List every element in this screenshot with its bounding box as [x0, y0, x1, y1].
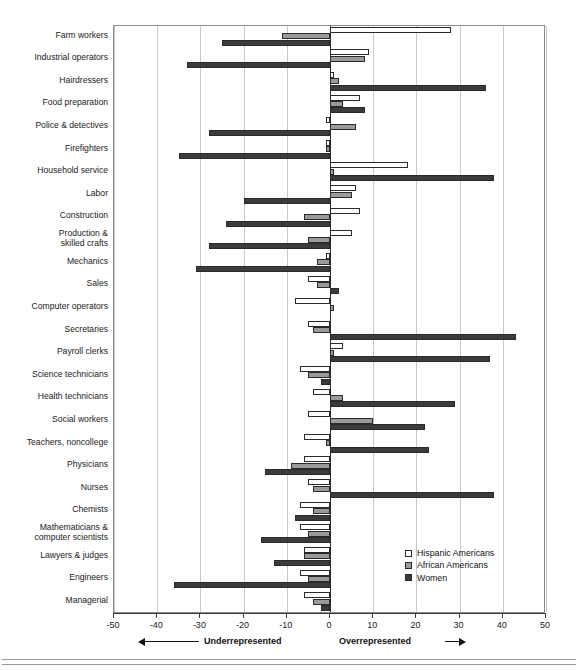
y-axis-label: Production & skilled crafts	[0, 229, 108, 248]
bar-hisp	[330, 208, 360, 214]
overrepresented-arrow-icon	[459, 638, 466, 646]
bar-row	[114, 94, 544, 117]
bar-women	[330, 175, 494, 181]
chart-figure: Farm workersIndustrial operatorsHairdres…	[0, 0, 578, 670]
bar-hisp	[308, 321, 330, 327]
x-tick-label: -20	[223, 620, 263, 630]
y-axis-label: Police & detectives	[0, 121, 108, 131]
bar-women	[209, 243, 330, 249]
y-axis-label: Household service	[0, 166, 108, 176]
direction-annotations: Underrepresented Overrepresented	[0, 636, 578, 656]
bar-hisp	[300, 570, 330, 576]
x-tick-label: -30	[179, 620, 219, 630]
bar-afam	[317, 259, 330, 265]
bar-women	[330, 492, 494, 498]
bar-afam	[291, 463, 330, 469]
bar-women	[330, 107, 365, 113]
bar-row	[114, 207, 544, 230]
bar-women	[330, 334, 516, 340]
bar-hisp	[330, 162, 408, 168]
bar-afam	[330, 395, 343, 401]
bar-afam	[308, 531, 330, 537]
bar-women	[295, 515, 330, 521]
x-tick-label: 40	[482, 620, 522, 630]
y-axis-label: Managerial	[0, 596, 108, 606]
bar-row	[114, 524, 544, 547]
bar-hisp	[304, 547, 330, 553]
x-tick-label: 50	[525, 620, 565, 630]
y-axis-label: Sales	[0, 279, 108, 289]
bar-row	[114, 116, 544, 139]
x-tick-label: 0	[309, 620, 349, 630]
bar-afam	[304, 553, 330, 559]
y-axis-label: Physicians	[0, 460, 108, 470]
bar-row	[114, 456, 544, 479]
x-tick-label: -10	[266, 620, 306, 630]
underrepresented-label: Underrepresented	[204, 636, 282, 646]
bar-row	[114, 162, 544, 185]
bar-hisp	[330, 185, 356, 191]
bar-afam	[330, 101, 343, 107]
x-tick-label: 20	[395, 620, 435, 630]
y-axis-label: Social workers	[0, 415, 108, 425]
bar-row	[114, 297, 544, 320]
bar-women	[330, 447, 429, 453]
bar-women	[330, 424, 425, 430]
bar-women	[174, 582, 330, 588]
bar-row	[114, 388, 544, 411]
bar-women	[179, 153, 330, 159]
footer-rule-bottom	[2, 664, 576, 665]
zero-line	[330, 26, 331, 612]
y-axis-label: Construction	[0, 211, 108, 221]
bar-afam	[330, 56, 365, 62]
bar-women	[330, 401, 455, 407]
bar-row	[114, 433, 544, 456]
bar-rows	[114, 26, 544, 612]
bar-hisp	[308, 411, 330, 417]
bar-women	[321, 605, 330, 611]
bar-women	[265, 469, 330, 475]
bar-row	[114, 591, 544, 614]
bar-row	[114, 320, 544, 343]
bar-row	[114, 343, 544, 366]
bar-afam	[313, 508, 330, 514]
overrepresented-label: Overrepresented	[339, 636, 411, 646]
underrepresented-arrow-icon	[138, 638, 145, 646]
bar-hisp	[304, 592, 330, 598]
bar-afam	[330, 124, 356, 130]
bar-hisp	[300, 524, 330, 530]
x-tick-label: -50	[93, 620, 133, 630]
bar-hisp	[330, 95, 360, 101]
bar-hisp	[300, 502, 330, 508]
bar-row	[114, 26, 544, 49]
y-axis-label: Computer operators	[0, 302, 108, 312]
bar-hisp	[313, 389, 330, 395]
bar-hisp	[330, 27, 451, 33]
bar-hisp	[295, 298, 330, 304]
bar-hisp	[300, 366, 330, 372]
y-axis-label: Payroll clerks	[0, 347, 108, 357]
y-axis-category-labels: Farm workersIndustrial operatorsHairdres…	[0, 25, 108, 613]
bar-row	[114, 478, 544, 501]
bar-row	[114, 230, 544, 253]
bar-afam	[317, 282, 330, 288]
bar-hisp	[330, 343, 343, 349]
y-axis-label: Engineers	[0, 573, 108, 583]
bar-women	[187, 62, 330, 68]
bar-hisp	[330, 230, 352, 236]
bar-women	[226, 221, 330, 227]
y-axis-label: Farm workers	[0, 31, 108, 41]
bar-afam	[308, 237, 330, 243]
bar-afam	[308, 372, 330, 378]
bar-women	[330, 85, 486, 91]
bar-afam	[308, 576, 330, 582]
bar-women	[222, 40, 330, 46]
bar-row	[114, 501, 544, 524]
bar-women	[330, 288, 339, 294]
bar-row	[114, 410, 544, 433]
bar-row	[114, 139, 544, 162]
bar-row	[114, 184, 544, 207]
bar-women	[330, 356, 490, 362]
bar-row	[114, 569, 544, 592]
underrepresented-arrow-line	[145, 641, 199, 642]
